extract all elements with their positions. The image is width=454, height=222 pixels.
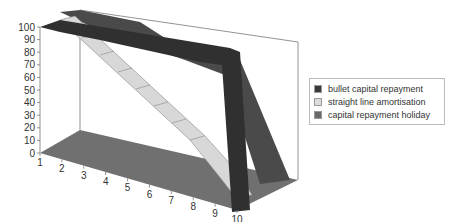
legend-label-straight-line: straight line amortisation xyxy=(328,97,426,107)
y-tick-label: 70 xyxy=(24,59,36,70)
y-tick-label: 60 xyxy=(24,72,36,83)
legend-swatch-holiday xyxy=(314,111,322,119)
y-axis-ticks: 0102030405060708090100 xyxy=(18,22,40,159)
x-tick-label: 2 xyxy=(59,163,65,174)
y-tick-label: 100 xyxy=(18,22,35,33)
y-tick-label: 30 xyxy=(24,110,36,121)
y-tick-label: 50 xyxy=(24,85,36,96)
legend: bullet capital repayment straight line a… xyxy=(309,78,445,125)
y-tick-label: 40 xyxy=(24,97,36,108)
legend-item-holiday: capital repayment holiday xyxy=(314,108,440,121)
x-tick-label: 4 xyxy=(103,176,109,187)
x-tick-label: 6 xyxy=(147,189,153,200)
legend-label-bullet: bullet capital repayment xyxy=(328,84,423,94)
y-tick-label: 20 xyxy=(24,122,36,133)
y-tick-label: 0 xyxy=(29,148,35,159)
legend-swatch-bullet xyxy=(314,85,322,93)
x-tick-label: 7 xyxy=(169,195,175,206)
x-tick-label: 10 xyxy=(231,214,243,222)
legend-item-straight-line: straight line amortisation xyxy=(314,95,440,108)
y-tick-label: 90 xyxy=(24,34,36,45)
legend-swatch-straight-line xyxy=(314,98,322,106)
x-tick-label: 3 xyxy=(81,170,87,181)
x-tick-label: 9 xyxy=(212,208,218,219)
legend-item-bullet: bullet capital repayment xyxy=(314,82,440,95)
legend-label-holiday: capital repayment holiday xyxy=(328,110,430,120)
x-tick-label: 1 xyxy=(37,157,43,168)
y-tick-label: 10 xyxy=(24,135,36,146)
x-tick-label: 8 xyxy=(190,201,196,212)
y-tick-label: 80 xyxy=(24,47,36,58)
x-tick-label: 5 xyxy=(125,182,131,193)
